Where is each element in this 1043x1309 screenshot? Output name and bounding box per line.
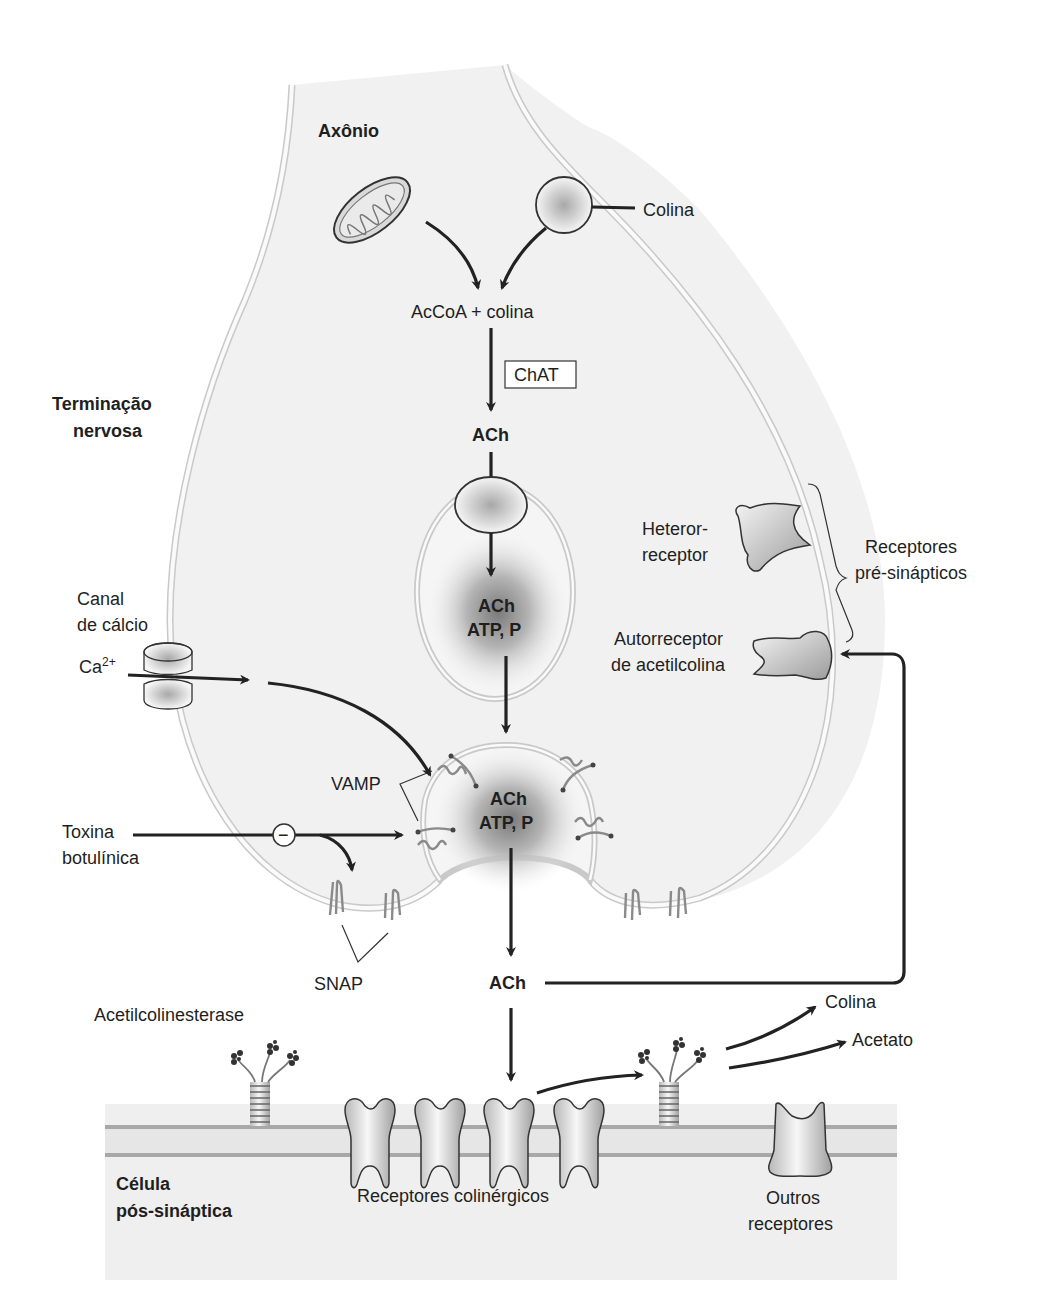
other-receptors-label-line2: receptores: [748, 1214, 833, 1234]
axon-label: Axônio: [318, 121, 379, 141]
autoreceptor-icon: [753, 631, 831, 679]
released-ach-label: ACh: [489, 973, 526, 993]
vesicle-content-line1: ACh: [478, 596, 515, 616]
calcium-channel-label-line1: Canal: [77, 589, 124, 609]
postsynaptic-label-line2: pós-sináptica: [116, 1201, 233, 1221]
cholinergic-synapse-diagram: Colina Axônio AcCoA + colina ChAT ACh Te…: [0, 0, 1043, 1309]
cholinergic-receptors-label: Receptores colinérgicos: [357, 1186, 549, 1206]
toxin-label-line1: Toxina: [62, 822, 115, 842]
postsynaptic-label-line1: Célula: [116, 1174, 171, 1194]
other-receptors-label-line1: Outros: [766, 1188, 820, 1208]
acetate-product-arrow: [729, 1042, 845, 1068]
heteroreceptor-label-line2: receptor: [642, 545, 708, 565]
ach-synthesized-label: ACh: [472, 425, 509, 445]
docked-vesicle-content-line1: ACh: [490, 789, 527, 809]
snap-label: SNAP: [314, 974, 363, 994]
choline-product-label: Colina: [825, 992, 877, 1012]
autoreceptor-label-line2: de acetilcolina: [611, 655, 726, 675]
presynaptic-receptors-label-line1: Receptores: [865, 537, 957, 557]
inhibition-symbol: −: [278, 825, 289, 845]
acetate-product-label: Acetato: [852, 1030, 913, 1050]
vesicle-content-line2: ATP, P: [467, 620, 521, 640]
ach-to-esterase-arrow: [537, 1075, 642, 1093]
substrates-label: AcCoA + colina: [411, 302, 535, 322]
snap-leader-line: [342, 925, 388, 962]
choline-label: Colina: [643, 200, 695, 220]
choline-transporter-icon: [536, 177, 592, 233]
heteroreceptor-label-line1: Heteror-: [642, 519, 708, 539]
calcium-channel-label-line2: de cálcio: [77, 615, 148, 635]
autoreceptor-label-line1: Autorreceptor: [614, 629, 723, 649]
toxin-label-line2: botulínica: [62, 848, 140, 868]
nerve-terminal-label-line1: Terminação: [52, 394, 152, 414]
nerve-terminal-label-line2: nervosa: [73, 421, 143, 441]
vamp-label: VAMP: [331, 774, 381, 794]
calcium-ion-label: Ca2+: [79, 655, 116, 677]
choline-product-arrow: [726, 1007, 815, 1049]
vesicular-transporter-icon: [455, 477, 527, 533]
presynaptic-receptors-label-line2: pré-sinápticos: [855, 563, 967, 583]
docked-vesicle-content-line2: ATP, P: [479, 813, 533, 833]
chat-label: ChAT: [514, 365, 559, 385]
choline-input-line: [592, 207, 635, 208]
acetylcholinesterase-label: Acetilcolinesterase: [94, 1005, 244, 1025]
